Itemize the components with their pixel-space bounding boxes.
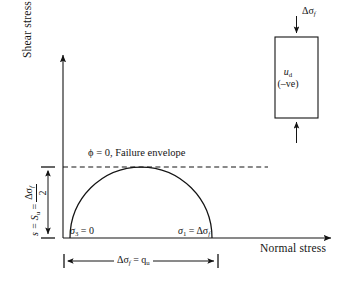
failure-envelope-label: ϕ = 0, Failure envelope	[88, 148, 185, 159]
horizontal-dimension-qu-sub: u	[146, 259, 149, 266]
fraction-numerator-sub: f	[28, 186, 35, 188]
horizontal-dimension-delta-sigma: Δσ	[117, 254, 129, 265]
vertical-dimension-fraction: Δσf 2	[24, 184, 49, 202]
vertical-dimension-prefix-text: s = S	[29, 215, 40, 236]
sigma1-value-subscript: f	[208, 230, 210, 237]
x-axis-label: Normal stress	[260, 243, 326, 255]
vertical-dimension-equals: =	[29, 204, 40, 212]
fraction-numerator-text: Δσ	[23, 188, 34, 200]
vertical-dimension-fraction-numerator: Δσf	[24, 184, 35, 202]
pore-pressure-label: ud	[284, 67, 292, 79]
y-axis-label: Shear stress	[22, 1, 34, 58]
sigma3-label: σ3 = 0	[70, 226, 94, 238]
vertical-dimension-fraction-denominator: 2	[38, 188, 49, 197]
sigma3-value: = 0	[78, 225, 94, 236]
figure-canvas: Shear stress Normal stress ϕ = 0, Failur…	[0, 0, 346, 283]
vertical-dimension-prefix: s = Su =	[30, 204, 42, 236]
horizontal-dimension-equals-qu: = q	[131, 254, 147, 265]
pore-pressure-subscript: d	[289, 71, 292, 78]
sample-top-load-subscript: f	[314, 10, 316, 17]
sample-top-load-symbol: Δσ	[302, 5, 314, 16]
sample-top-load-label: Δσf	[302, 6, 316, 18]
diagram-vector-layer	[0, 0, 346, 283]
sigma1-label: σ1 = Δσf	[178, 226, 210, 238]
vertical-dimension-label: s = Su = Δσf 2	[24, 184, 49, 236]
horizontal-dimension-label: Δσf = qu	[114, 255, 153, 267]
pore-pressure-sign-label: (–ve)	[277, 79, 298, 89]
vertical-dimension-prefix-sub: u	[34, 212, 41, 215]
sigma1-value: = Δσ	[186, 225, 208, 236]
